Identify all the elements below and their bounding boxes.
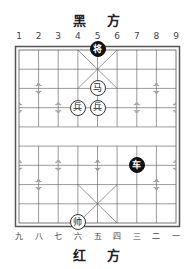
grid-lines bbox=[19, 50, 176, 223]
bottom-file-numbers: 九 八 七 六 五 四 三 二 一 bbox=[0, 230, 193, 242]
black-general-piece[interactable]: 将 bbox=[90, 41, 106, 57]
file-number: 九 bbox=[12, 230, 26, 241]
red-soldier-piece[interactable]: 兵 bbox=[70, 100, 86, 116]
red-side-label: 红 方 bbox=[0, 245, 193, 264]
file-number: 三 bbox=[130, 230, 144, 241]
red-horse-piece[interactable]: 马 bbox=[90, 80, 106, 96]
black-chariot-piece[interactable]: 车 bbox=[129, 157, 145, 173]
file-number: 二 bbox=[149, 230, 163, 241]
file-number: 一 bbox=[169, 230, 183, 241]
file-number: 六 bbox=[71, 230, 85, 241]
red-general-piece[interactable]: 帅 bbox=[70, 214, 86, 230]
file-number: 四 bbox=[110, 230, 124, 241]
file-number: 八 bbox=[32, 230, 46, 241]
red-soldier-piece[interactable]: 兵 bbox=[90, 100, 106, 116]
file-number: 七 bbox=[51, 230, 65, 241]
file-number: 五 bbox=[91, 230, 105, 241]
